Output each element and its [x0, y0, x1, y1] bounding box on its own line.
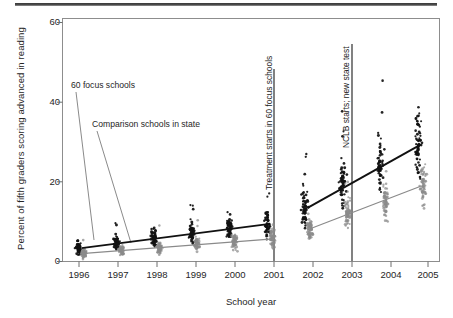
scatter-point	[151, 231, 154, 234]
scatter-point	[380, 170, 382, 172]
scatter-point	[418, 112, 420, 114]
scatter-point	[303, 207, 306, 210]
scatter-point	[191, 223, 194, 226]
scatter-point	[120, 253, 122, 255]
scatter-point	[423, 207, 426, 210]
chart-figure: Percent of fifth graders scoring advance…	[0, 0, 453, 318]
scatter-point	[377, 134, 380, 137]
scatter-point	[383, 209, 386, 212]
scatter-point	[377, 132, 379, 134]
scatter-point	[378, 178, 381, 181]
scatter-point	[308, 218, 311, 221]
scatter-point	[303, 173, 306, 176]
scatter-point	[77, 240, 80, 243]
scatter-point	[421, 142, 424, 145]
scatter-point	[305, 153, 307, 155]
scatter-point	[310, 224, 312, 226]
y-tick-marks	[57, 23, 63, 262]
scatter-point	[227, 234, 230, 237]
scatter-point	[338, 181, 340, 183]
scatter-point	[421, 190, 424, 193]
scatter-point	[424, 163, 426, 165]
scatter-point	[341, 207, 344, 210]
scatter-point	[414, 129, 417, 132]
scatter-point	[272, 223, 275, 226]
scatter-point	[342, 130, 344, 132]
scatter-point	[417, 153, 420, 156]
scatter-point	[121, 244, 123, 246]
scatter-point	[305, 156, 307, 158]
scatter-point	[116, 236, 118, 238]
scatter-point	[196, 225, 198, 227]
scatter-point	[85, 255, 87, 257]
scatter-point	[269, 233, 272, 236]
scatter-point	[422, 185, 425, 188]
scatter-point	[416, 157, 419, 160]
scatter-point	[270, 238, 272, 240]
scatter-point	[344, 183, 346, 185]
scatter-point	[304, 212, 306, 214]
scatter-point	[379, 150, 382, 153]
scatter-point	[341, 135, 344, 138]
scatter-point	[347, 227, 349, 229]
scatter-point	[273, 240, 275, 242]
scatter-point	[82, 255, 84, 257]
scatter-point	[308, 234, 311, 237]
scatter-point	[346, 181, 349, 184]
scatter-point	[418, 164, 421, 167]
scatter-point	[379, 154, 382, 157]
scatter-point	[423, 166, 425, 168]
scatter-point	[192, 205, 194, 207]
trend-line-comparison-seg2	[308, 186, 421, 230]
scatter-point	[378, 182, 380, 184]
scatter-point	[422, 194, 424, 196]
scatter-point	[267, 219, 270, 222]
scatter-point	[425, 173, 428, 176]
scatter-point	[153, 235, 155, 237]
scatter-point	[190, 240, 192, 242]
leader-line-focus-schools	[76, 92, 94, 240]
scatter-point	[416, 120, 418, 122]
scatter-point	[420, 120, 422, 122]
scatter-point	[114, 222, 116, 224]
scatter-point	[198, 245, 201, 248]
scatter-point	[416, 133, 419, 136]
scatter-point	[306, 191, 308, 193]
scatter-point	[160, 242, 162, 244]
scatter-point	[268, 192, 270, 194]
scatter-point	[347, 222, 349, 224]
scatter-point	[422, 183, 425, 186]
scatter-point	[302, 185, 304, 187]
scatter-point	[415, 137, 418, 140]
scatter-point	[340, 157, 342, 159]
x-tick-marks	[79, 262, 428, 268]
scatter-point	[341, 110, 344, 113]
scatter-point	[424, 193, 426, 195]
scatter-point	[343, 193, 345, 195]
scatter-point	[154, 240, 156, 242]
scatter-point	[301, 221, 304, 224]
scatter-point	[306, 224, 309, 227]
scatter-point	[302, 197, 305, 200]
scatter-point	[230, 235, 232, 237]
scatter-point	[379, 143, 382, 146]
scatter-point	[304, 218, 307, 221]
scatter-point	[273, 235, 275, 237]
scatter-point	[114, 233, 117, 236]
scatter-point	[347, 196, 349, 198]
scatter-point	[421, 197, 424, 200]
scatter-point	[381, 111, 384, 114]
scatter-point	[383, 148, 386, 151]
scatter-point	[345, 218, 347, 220]
scatter-point	[414, 135, 416, 137]
scatter-point	[150, 228, 152, 230]
scatter-point	[266, 216, 268, 218]
scatter-point	[417, 124, 420, 127]
scatter-point	[195, 235, 197, 237]
scatter-point	[189, 218, 191, 220]
scatter-point	[419, 176, 422, 179]
scatter-point	[234, 233, 236, 235]
scatter-point	[310, 236, 313, 239]
scatter-point	[421, 178, 424, 181]
scatter-point	[311, 233, 313, 235]
